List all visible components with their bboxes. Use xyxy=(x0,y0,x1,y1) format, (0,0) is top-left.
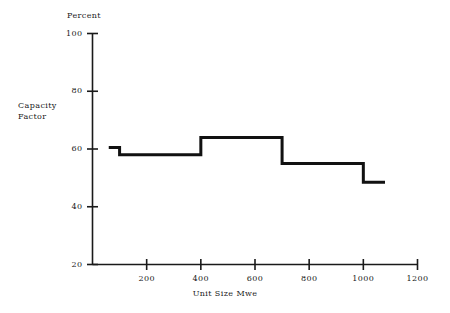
plot-area xyxy=(0,0,450,313)
data-series xyxy=(109,137,385,182)
step-line xyxy=(109,137,385,182)
axes xyxy=(87,34,418,271)
chart-figure: Percent Capacity Factor Unit Size Mwe 20… xyxy=(0,0,450,313)
